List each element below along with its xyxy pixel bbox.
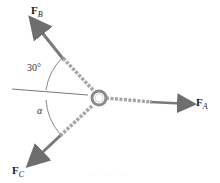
force-arrow-FA <box>150 102 192 104</box>
angle-arc-30 <box>46 58 62 90</box>
force-arrow-FC <box>30 134 62 164</box>
angle-arc-alpha <box>46 100 60 134</box>
label-FA: FA <box>196 96 208 111</box>
force-arrow-FB <box>32 20 64 60</box>
force-diagram <box>0 0 220 183</box>
label-FB: FB <box>31 4 43 19</box>
angle-label-alpha: α <box>37 105 42 116</box>
figure-caption: · · · · · · · · <box>88 172 129 178</box>
reference-line <box>12 89 88 95</box>
rope-B <box>62 57 93 90</box>
angle-label-30: 30° <box>27 62 41 73</box>
rope-A <box>106 98 152 102</box>
label-FC: FC <box>12 164 24 179</box>
rope-C <box>60 106 92 136</box>
